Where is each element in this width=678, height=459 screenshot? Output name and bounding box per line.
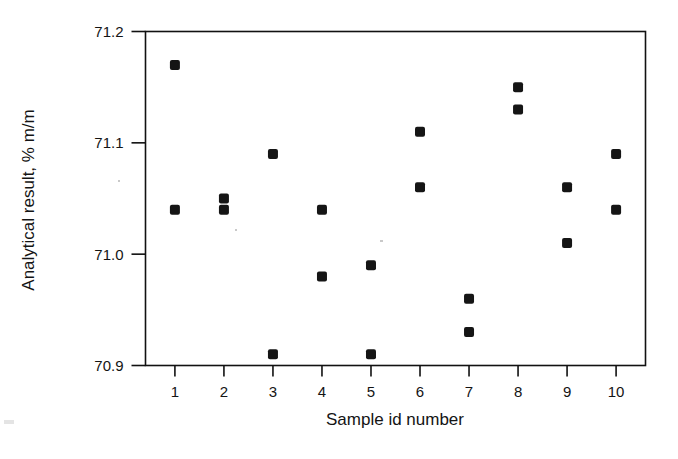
- data-point: [317, 205, 327, 215]
- data-point: [170, 205, 180, 215]
- data-point: [366, 349, 376, 359]
- data-point: [170, 60, 180, 70]
- x-tick-label-1: 1: [171, 383, 179, 400]
- data-point: [562, 238, 572, 248]
- data-point: [415, 182, 425, 192]
- data-point: [268, 349, 278, 359]
- x-tick-label-7: 7: [465, 383, 473, 400]
- x-axis-tick-labels: 12345678910: [171, 383, 625, 400]
- y-tick-label-70.9: 70.9: [94, 357, 123, 374]
- plot-canvas: 70.971.071.171.2 12345678910 Sample id n…: [0, 0, 678, 459]
- data-point: [611, 205, 621, 215]
- scatter-plot-figure: 70.971.071.171.2 12345678910 Sample id n…: [0, 0, 678, 459]
- x-tick-label-8: 8: [514, 383, 522, 400]
- data-point: [513, 82, 523, 92]
- data-point: [219, 194, 229, 204]
- x-tick-label-2: 2: [220, 383, 228, 400]
- x-axis-title: Sample id number: [326, 410, 464, 429]
- data-point: [513, 104, 523, 114]
- data-point: [219, 205, 229, 215]
- y-axis-tick-labels: 70.971.071.171.2: [94, 23, 123, 374]
- data-point-group: [170, 60, 621, 359]
- data-point: [366, 260, 376, 270]
- x-tick-label-5: 5: [367, 383, 375, 400]
- data-point: [415, 127, 425, 137]
- data-point: [464, 327, 474, 337]
- y-tick-label-71.0: 71.0: [94, 246, 123, 263]
- x-tick-label-6: 6: [416, 383, 424, 400]
- data-point: [611, 149, 621, 159]
- x-tick-label-4: 4: [318, 383, 326, 400]
- x-tick-label-10: 10: [608, 383, 625, 400]
- y-axis-ticks: [132, 32, 146, 366]
- y-tick-label-71.1: 71.1: [94, 134, 123, 151]
- data-point: [464, 294, 474, 304]
- y-tick-label-71.2: 71.2: [94, 23, 123, 40]
- x-tick-label-3: 3: [269, 383, 277, 400]
- data-point: [268, 149, 278, 159]
- data-point: [562, 182, 572, 192]
- y-axis-title: Analytical result, % m/m: [19, 109, 38, 290]
- data-point: [317, 271, 327, 281]
- x-axis-ticks: [175, 366, 616, 377]
- x-tick-label-9: 9: [563, 383, 571, 400]
